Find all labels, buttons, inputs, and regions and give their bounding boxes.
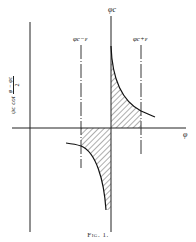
fraction-denominator: 2 bbox=[14, 84, 20, 87]
y-axis-label-fraction: φ − φc 2 bbox=[7, 76, 20, 94]
fraction-numerator: φ − φc bbox=[7, 76, 14, 94]
phi-c-plus-eps-label: φc+ε bbox=[133, 36, 147, 43]
y-axis-label-prefix: ψc cot bbox=[9, 96, 17, 114]
lower-shaded-region bbox=[81, 128, 111, 210]
x-axis-label: φ bbox=[183, 131, 187, 139]
y-axis-label: ψc cot φ − φc 2 bbox=[6, 44, 20, 114]
phi-c-label: φc bbox=[108, 6, 116, 14]
figure-canvas bbox=[0, 0, 196, 242]
upper-shaded-region bbox=[111, 46, 141, 128]
figure-caption: Fig. 1. bbox=[0, 231, 196, 239]
phi-c-minus-eps-label: φc−ε bbox=[73, 36, 87, 43]
